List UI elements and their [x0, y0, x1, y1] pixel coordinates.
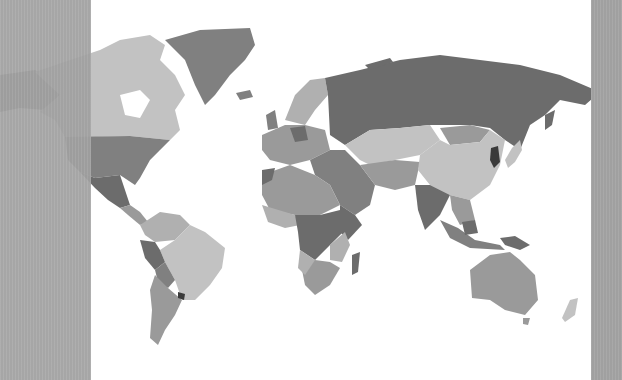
world-map — [0, 0, 622, 380]
region-iceland[interactable] — [236, 90, 253, 100]
region-madagascar[interactable] — [352, 252, 360, 275]
region-tasmania[interactable] — [523, 318, 530, 325]
region-uk[interactable] — [266, 110, 278, 130]
region-australia[interactable] — [470, 252, 538, 315]
region-southeast-asia[interactable] — [450, 195, 475, 225]
right-side-panel — [591, 0, 622, 380]
left-side-panel — [0, 0, 91, 380]
region-new-zealand[interactable] — [562, 298, 578, 322]
region-scandinavia[interactable] — [285, 78, 328, 125]
region-central-america[interactable] — [120, 205, 148, 225]
region-papua-new-guinea[interactable] — [500, 236, 530, 250]
